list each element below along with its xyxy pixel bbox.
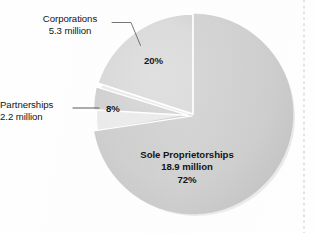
callout-sole-proprietorships: Sole Proprietorships 18.9 million 72% [122,149,252,186]
callout-corporations: Corporations 5.3 million [22,13,118,38]
callout-partnerships: Partnerships 2.2 million [0,99,74,124]
callout-partnerships-amount: 2.2 million [0,111,74,123]
callout-partnerships-name: Partnerships [0,99,74,111]
pie-chart-figure: Corporations 5.3 million Partnerships 2.… [0,0,315,233]
callout-sole-proprietorships-name: Sole Proprietorships [122,149,252,161]
slice-percent-partnerships: 8% [106,103,120,115]
callout-corporations-amount: 5.3 million [22,25,118,37]
callout-corporations-name: Corporations [22,13,118,25]
slice-percent-corporations: 20% [144,55,163,67]
callout-sole-proprietorships-percent: 72% [122,174,252,186]
callout-sole-proprietorships-amount: 18.9 million [122,161,252,173]
